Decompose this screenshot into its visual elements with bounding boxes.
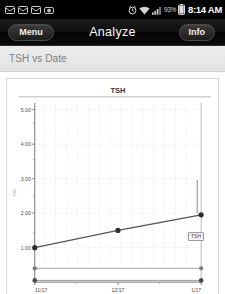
svg-text:5.00: 5.00	[21, 107, 31, 113]
status-bar-system: 93% 8:14 AM	[128, 1, 222, 19]
status-bar-notifications	[5, 1, 54, 19]
subtitle-bar: TSH vs Date	[0, 46, 225, 72]
camera-icon	[44, 1, 54, 19]
data-point[interactable]	[115, 228, 120, 233]
svg-text:1/17: 1/17	[191, 287, 201, 293]
app-root: 93% 8:14 AM Menu Info Analyze TSH vs Dat…	[0, 0, 225, 294]
battery-icon	[178, 1, 185, 19]
data-point[interactable]	[32, 245, 37, 250]
action-bar: Menu Info Analyze	[0, 19, 225, 46]
subtitle-label: TSH vs Date	[9, 53, 67, 64]
chart-tooltip[interactable]: TSH	[188, 232, 204, 241]
y-axis-title: TSH	[12, 189, 17, 197]
status-bar-clock: 8:14 AM	[187, 4, 222, 15]
info-button[interactable]: Info	[179, 24, 216, 41]
chart-tooltip-label: TSH	[191, 233, 201, 239]
svg-text:11/17: 11/17	[35, 287, 48, 293]
wifi-icon	[139, 1, 150, 19]
svg-text:12/17: 12/17	[112, 287, 125, 293]
chart-card[interactable]: TSH	[6, 78, 219, 294]
message-icon	[5, 1, 15, 19]
data-point[interactable]	[199, 212, 204, 217]
message-icon	[31, 1, 41, 19]
status-bar: 93% 8:14 AM	[0, 0, 225, 19]
svg-text:1.00: 1.00	[21, 245, 31, 251]
battery-percent-label: 93%	[164, 6, 176, 13]
menu-button[interactable]: Menu	[8, 24, 54, 41]
svg-text:4.00: 4.00	[21, 141, 31, 147]
tsh-line-chart[interactable]: TSH	[7, 79, 218, 294]
svg-text:2.00: 2.00	[21, 210, 31, 216]
svg-text:3.00: 3.00	[21, 176, 31, 182]
chart-title: TSH	[111, 86, 126, 95]
alarm-icon	[128, 1, 137, 19]
message-icon	[18, 1, 28, 19]
signal-icon	[152, 1, 162, 19]
